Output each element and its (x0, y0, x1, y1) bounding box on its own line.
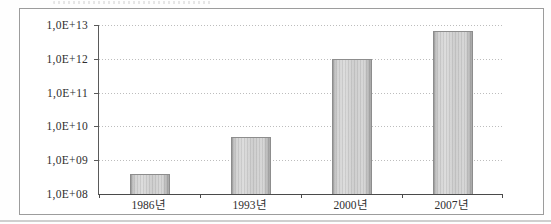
x-tick-label: 1993년 (215, 198, 285, 212)
y-tick-label: 1,0E+10 (24, 119, 88, 133)
x-axis-tick (502, 195, 503, 198)
scanned-chart-page: { "page": { "background": "#fefefe", "fr… (0, 0, 551, 224)
y-axis-tick (94, 93, 98, 94)
x-axis-tick (200, 195, 201, 198)
gridline-1e13 (99, 25, 503, 26)
x-axis-tick (402, 195, 403, 198)
y-axis-tick (94, 25, 98, 26)
y-tick-label: 1,0E+11 (24, 86, 88, 100)
chart-frame: 1,0E+081,0E+091,0E+101,0E+111,0E+121,0E+… (19, 8, 544, 215)
y-axis-tick (94, 160, 98, 161)
bar-1993년 (231, 137, 271, 194)
x-tick-label: 1986년 (114, 198, 184, 212)
y-axis-tick (94, 59, 98, 60)
plot-area (98, 25, 503, 195)
y-axis-tick (94, 126, 98, 127)
scan-artifact-top-edge (53, 1, 213, 4)
scan-artifact-bottom-rule (0, 220, 551, 222)
bar-1986년 (130, 174, 170, 194)
x-tick-label: 2007년 (417, 198, 487, 212)
y-tick-label: 1,0E+13 (24, 18, 88, 32)
x-tick-label: 2000년 (316, 198, 386, 212)
x-axis-tick (99, 195, 100, 198)
y-tick-label: 1,0E+12 (24, 52, 88, 66)
x-axis-tick (301, 195, 302, 198)
y-tick-label: 1,0E+08 (24, 187, 88, 201)
bar-2007년 (433, 31, 473, 194)
bar-2000년 (332, 59, 372, 194)
y-tick-label: 1,0E+09 (24, 153, 88, 167)
